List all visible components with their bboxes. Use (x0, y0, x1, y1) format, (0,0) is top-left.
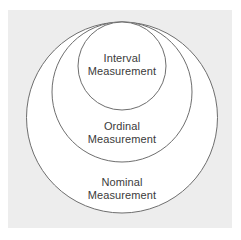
label-interval-line2: Measurement (47, 65, 197, 78)
figure-root: Interval Measurement Ordinal Measurement… (0, 0, 241, 240)
label-ordinal-line2: Measurement (47, 133, 197, 146)
label-interval-measurement: Interval Measurement (47, 52, 197, 78)
label-nominal-measurement: Nominal Measurement (47, 176, 197, 202)
label-nominal-line2: Measurement (47, 189, 197, 202)
label-ordinal-line1: Ordinal (47, 120, 197, 133)
label-ordinal-measurement: Ordinal Measurement (47, 120, 197, 146)
label-interval-line1: Interval (47, 52, 197, 65)
label-nominal-line1: Nominal (47, 176, 197, 189)
